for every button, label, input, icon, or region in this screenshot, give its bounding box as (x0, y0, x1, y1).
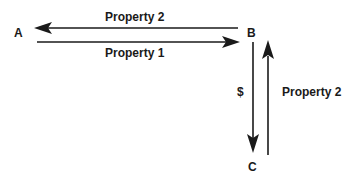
flow-diagram: A B C Property 2 Property 1 $ Property 2 (0, 0, 358, 180)
edge-b-to-a-label: Property 2 (105, 10, 165, 24)
node-a-label: A (14, 26, 23, 40)
edge-b-to-a: Property 2 (34, 10, 238, 34)
edge-a-to-b-label: Property 1 (105, 46, 165, 60)
edge-c-to-b: Property 2 (262, 40, 342, 155)
node-c-label: C (248, 160, 257, 174)
edge-a-to-b: Property 1 (37, 36, 240, 60)
edge-b-to-c-label: $ (237, 85, 244, 99)
node-b-label: B (247, 26, 256, 40)
edge-c-to-b-label: Property 2 (282, 85, 342, 99)
edge-b-to-c: $ (237, 42, 259, 153)
